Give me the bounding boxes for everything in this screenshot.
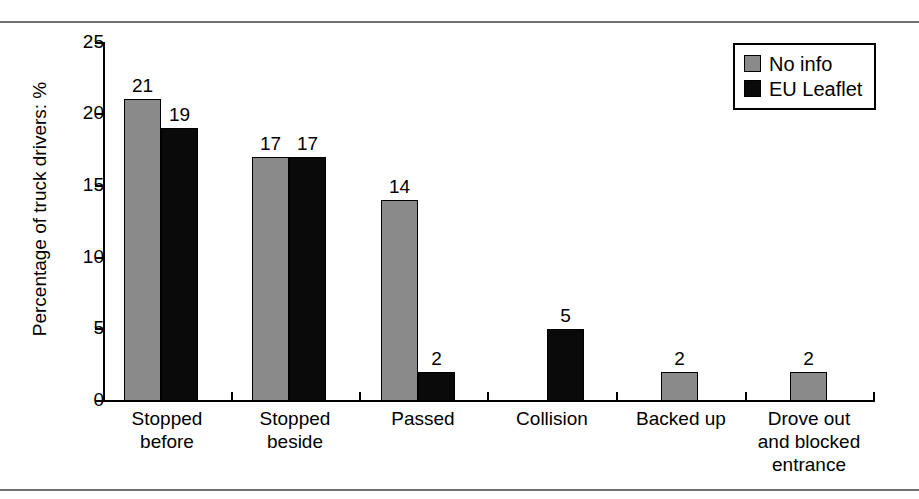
- legend-label-no-info: No info: [769, 54, 832, 74]
- x-tick-0: [103, 392, 105, 402]
- bar-backed-up-no-info: [661, 372, 698, 401]
- legend-swatch-no-info-icon: [744, 55, 761, 72]
- bar-label-stopped-before-eu-leaflet: 19: [159, 105, 200, 124]
- bar-label-stopped-beside-eu-leaflet: 17: [287, 134, 328, 153]
- bar-label-collision-eu-leaflet: 5: [545, 306, 586, 325]
- x-tick-1: [231, 392, 233, 402]
- bar-passed-eu-leaflet: [418, 372, 455, 401]
- page-header-strip: [0, 0, 919, 13]
- bar-passed-no-info: [381, 200, 418, 401]
- x-tick-6: [873, 392, 875, 402]
- y-tick-label-25: 25: [64, 32, 104, 51]
- x-tick-2: [359, 392, 361, 402]
- bar-stopped-beside-eu-leaflet: [289, 157, 326, 401]
- page-rule-bottom: [0, 489, 919, 491]
- bar-label-stopped-beside-no-info: 17: [250, 134, 291, 153]
- x-category-label-drove-out: Drove out and blocked entrance: [742, 407, 876, 476]
- bar-label-drove-out-no-info: 2: [788, 349, 829, 368]
- bar-collision-eu-leaflet: [547, 329, 584, 401]
- chart-legend: No info EU Leaflet: [733, 43, 876, 110]
- legend-item-no-info: No info: [744, 51, 862, 76]
- y-tick-label-20: 20: [64, 103, 104, 122]
- x-category-label-passed: Passed: [363, 407, 483, 430]
- y-tick-label-10: 10: [64, 247, 104, 266]
- x-tick-5: [745, 392, 747, 402]
- x-axis-line: [103, 400, 875, 402]
- x-tick-3: [487, 392, 489, 402]
- y-tick-label-5: 5: [64, 318, 104, 337]
- bar-label-backed-up-no-info: 2: [659, 349, 700, 368]
- legend-label-eu-leaflet: EU Leaflet: [769, 79, 862, 99]
- bar-chart: Percentage of truck drivers: % 0 5 10 15…: [0, 23, 919, 489]
- bar-stopped-before-eu-leaflet: [161, 128, 198, 401]
- bar-label-passed-eu-leaflet: 2: [416, 349, 457, 368]
- bar-stopped-before-no-info: [124, 99, 161, 401]
- y-axis-line: [103, 42, 105, 402]
- y-tick-label-15: 15: [64, 175, 104, 194]
- x-tick-4: [616, 392, 618, 402]
- x-category-label-stopped-before: Stopped before: [107, 407, 227, 453]
- bar-label-stopped-before-no-info: 21: [122, 76, 163, 95]
- legend-swatch-eu-leaflet-icon: [744, 80, 761, 97]
- bar-stopped-beside-no-info: [252, 157, 289, 401]
- y-tick-label-0: 0: [64, 390, 104, 409]
- y-axis-title: Percentage of truck drivers: %: [29, 29, 51, 389]
- x-category-label-backed-up: Backed up: [620, 407, 742, 430]
- x-category-label-stopped-beside: Stopped beside: [235, 407, 355, 453]
- bar-drove-out-no-info: [790, 372, 827, 401]
- x-category-label-collision: Collision: [492, 407, 612, 430]
- bar-label-passed-no-info: 14: [379, 177, 420, 196]
- legend-item-eu-leaflet: EU Leaflet: [744, 76, 862, 101]
